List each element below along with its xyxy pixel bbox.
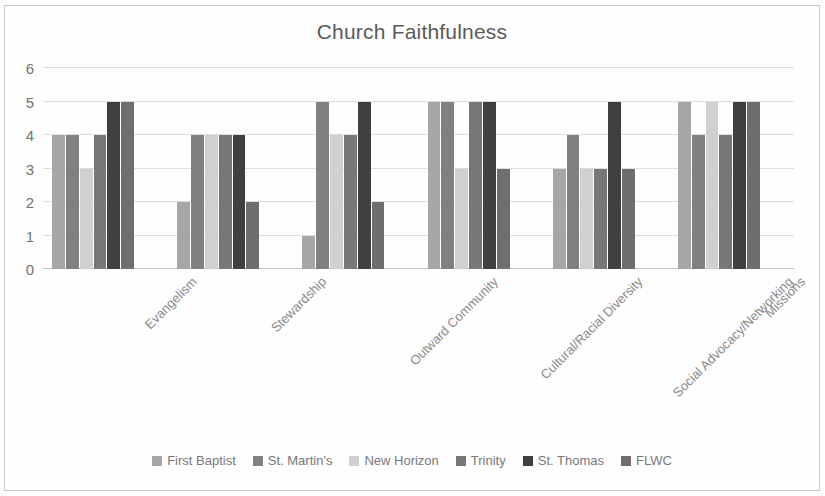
bar[interactable] [358,102,371,270]
bar[interactable] [706,102,719,270]
category-label: Outward Community [407,274,501,368]
bar-group [52,68,135,269]
legend-label: New Horizon [364,453,438,468]
category-label: Stewardship [268,274,329,335]
bar-group [678,68,761,269]
chart-legend: First BaptistSt. Martin'sNew HorizonTrin… [5,453,819,468]
bar[interactable] [469,102,482,270]
bar[interactable] [66,135,79,269]
legend-swatch-icon [456,456,466,466]
bar[interactable] [191,135,204,269]
plot-inner: 0123456 [43,68,794,269]
legend-item[interactable]: FLWC [621,453,672,468]
legend-item[interactable]: Trinity [456,453,506,468]
y-axis-tick-2: 2 [26,194,34,211]
category-label: Evangelism [141,274,199,332]
y-axis-tick-3: 3 [26,160,34,177]
y-axis-tick-4: 4 [26,127,34,144]
legend-swatch-icon [349,456,359,466]
bar[interactable] [246,202,259,269]
legend-label: Trinity [471,453,506,468]
legend-label: St. Martin's [268,453,333,468]
legend-swatch-icon [253,456,263,466]
category-axis-labels: EvangelismStewardshipOutward CommunityCu… [43,274,794,399]
bar[interactable] [94,135,107,269]
bar[interactable] [330,135,343,269]
y-axis-tick-1: 1 [26,227,34,244]
bar[interactable] [107,102,120,270]
bar[interactable] [692,135,705,269]
bar[interactable] [80,169,93,270]
legend-item[interactable]: St. Martin's [253,453,333,468]
legend-label: First Baptist [167,453,236,468]
category-label: Cultural/Racial Diversity [537,274,645,382]
legend-swatch-icon [621,456,631,466]
bar-group [428,68,511,269]
y-axis-tick-6: 6 [26,60,34,77]
bar[interactable] [622,169,635,270]
bar[interactable] [567,135,580,269]
legend-swatch-icon [152,456,162,466]
bar[interactable] [553,169,566,270]
bar[interactable] [344,135,357,269]
legend-item[interactable]: New Horizon [349,453,438,468]
legend-label: FLWC [636,453,672,468]
bar[interactable] [233,135,246,269]
chart-container: Church Faithfulness 0123456 EvangelismSt… [4,5,820,491]
legend-item[interactable]: First Baptist [152,453,236,468]
bar[interactable] [594,169,607,270]
bar[interactable] [608,102,621,270]
bar[interactable] [316,102,329,270]
legend-swatch-icon [523,456,533,466]
bar[interactable] [580,169,593,270]
bar[interactable] [302,236,315,270]
bar[interactable] [219,135,232,269]
bar[interactable] [733,102,746,270]
bar[interactable] [678,102,691,270]
bar[interactable] [121,102,134,270]
chart-title: Church Faithfulness [5,20,819,44]
bar[interactable] [205,135,218,269]
bar[interactable] [497,169,510,270]
bar-group [553,68,636,269]
bar-group [302,68,385,269]
bar[interactable] [441,102,454,270]
legend-label: St. Thomas [538,453,604,468]
bar[interactable] [177,202,190,269]
bar-group [177,68,260,269]
bar[interactable] [372,202,385,269]
bar[interactable] [428,102,441,270]
y-axis-tick-5: 5 [26,93,34,110]
bar[interactable] [52,135,65,269]
bar[interactable] [719,135,732,269]
bar[interactable] [483,102,496,270]
bar[interactable] [455,169,468,270]
legend-item[interactable]: St. Thomas [523,453,604,468]
plot-area: 0123456 [43,68,794,269]
y-axis-tick-0: 0 [26,261,34,278]
bar[interactable] [747,102,760,270]
